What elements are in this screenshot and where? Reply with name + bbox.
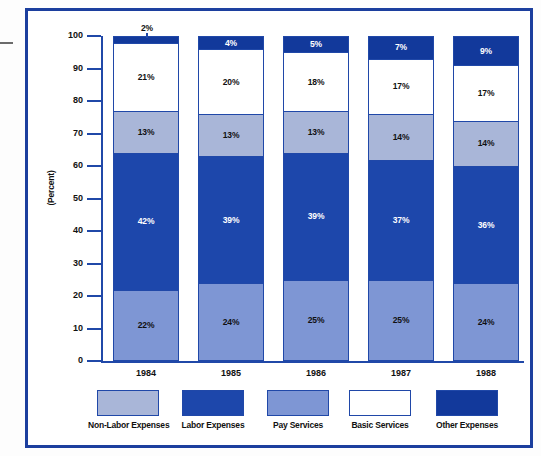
- bar-group: 5%18%13%39%25%: [283, 36, 349, 361]
- bar-segment-value-label: 22%: [138, 321, 155, 330]
- legend-label: Labor Expenses: [173, 420, 253, 430]
- x-axis-category-label: 1985: [198, 368, 264, 378]
- y-axis-tick: [87, 68, 101, 70]
- bar-segment-value-label: 36%: [478, 221, 495, 230]
- legend-item[interactable]: Other Expenses: [427, 390, 507, 430]
- bar-segment[interactable]: 39%: [284, 153, 348, 280]
- bar-segment[interactable]: 25%: [284, 280, 348, 361]
- x-axis-line: [101, 361, 524, 363]
- legend-item[interactable]: Labor Expenses: [173, 390, 253, 430]
- bar-segment[interactable]: 20%: [199, 49, 263, 114]
- bar-segment[interactable]: 13%: [199, 114, 263, 156]
- bar-segment[interactable]: 42%: [114, 153, 178, 290]
- bar-segment[interactable]: 36%: [454, 166, 518, 283]
- bar-segment-value-label: 13%: [223, 131, 240, 140]
- legend-label: Other Expenses: [427, 420, 507, 430]
- stacked-bar[interactable]: 5%18%13%39%25%: [283, 36, 349, 361]
- bar-segment[interactable]: 24%: [454, 283, 518, 361]
- value-label-leader-tick: [146, 33, 148, 38]
- bar-group: 4%20%13%39%24%: [198, 36, 264, 361]
- bar-segment[interactable]: 7%: [369, 36, 433, 59]
- legend-swatch: [97, 390, 159, 416]
- y-axis-labels: 1009080706050403020100: [25, 8, 83, 448]
- bar-segment[interactable]: 13%: [114, 111, 178, 153]
- y-axis-tick-label: 60: [49, 161, 83, 170]
- bar-segment[interactable]: 24%: [199, 283, 263, 361]
- bar-segment-value-label: 17%: [478, 89, 495, 98]
- bar-segment-value-label: 2%: [114, 24, 180, 33]
- bar-segment-value-label: 25%: [393, 316, 410, 325]
- chart-legend: Non-Labor ExpensesLabor ExpensesPay Serv…: [85, 390, 510, 440]
- y-axis-tick-label: 30: [49, 259, 83, 268]
- y-axis-tick-label: 10: [49, 324, 83, 333]
- bar-segment[interactable]: 13%: [284, 111, 348, 153]
- legend-swatch: [182, 390, 244, 416]
- bar-segment[interactable]: 14%: [454, 121, 518, 167]
- y-axis-tick-label: 40: [49, 226, 83, 235]
- x-axis-category-label: 1984: [113, 368, 179, 378]
- bar-segment-value-label: 18%: [308, 78, 325, 87]
- bar-segment[interactable]: 14%: [369, 114, 433, 160]
- y-axis-line: [101, 36, 103, 362]
- y-axis-tick: [87, 360, 101, 362]
- y-axis-tick: [87, 165, 101, 167]
- bar-segment-value-label: 9%: [480, 47, 492, 56]
- y-axis-tick: [87, 198, 101, 200]
- bar-segment[interactable]: 37%: [369, 160, 433, 280]
- bar-segment[interactable]: 5%: [284, 36, 348, 52]
- bar-group: 2%21%13%42%22%: [113, 36, 179, 361]
- stacked-bar[interactable]: 9%17%14%36%24%: [453, 36, 519, 361]
- bar-segment[interactable]: 22%: [114, 290, 178, 362]
- y-axis-tick-label: 90: [49, 64, 83, 73]
- bar-segment-value-label: 17%: [393, 82, 410, 91]
- bar-segment-value-label: 4%: [225, 39, 237, 48]
- stacked-bar-chart: (Percent) 1009080706050403020100 2%21%13…: [25, 8, 533, 448]
- bar-segment-value-label: 21%: [138, 73, 155, 82]
- bar-segment-value-label: 14%: [393, 133, 410, 142]
- bar-segment[interactable]: 18%: [284, 52, 348, 111]
- legend-item[interactable]: Non-Labor Expenses: [88, 390, 168, 430]
- y-axis-tick: [87, 133, 101, 135]
- bar-segment-value-label: 14%: [478, 139, 495, 148]
- bar-segment-value-label: 13%: [308, 128, 325, 137]
- bar-group: 9%17%14%36%24%: [453, 36, 519, 361]
- legend-swatch: [267, 390, 329, 416]
- bar-segment[interactable]: 17%: [454, 65, 518, 120]
- bar-segment-value-label: 20%: [223, 78, 240, 87]
- y-axis-tick-label: 100: [49, 31, 83, 40]
- bar-segment[interactable]: 21%: [114, 43, 178, 111]
- stacked-bar[interactable]: 4%20%13%39%24%: [198, 36, 264, 361]
- y-axis-tick: [87, 100, 101, 102]
- y-axis-tick: [87, 328, 101, 330]
- bar-segment-value-label: 39%: [308, 212, 325, 221]
- bar-segment[interactable]: 17%: [369, 59, 433, 114]
- legend-label: Basic Services: [340, 420, 420, 430]
- legend-item[interactable]: Pay Services: [258, 390, 338, 430]
- bar-segment[interactable]: 4%: [199, 36, 263, 49]
- y-axis-tick: [87, 230, 101, 232]
- y-axis-tick-label: 50: [49, 194, 83, 203]
- legend-swatch: [436, 390, 498, 416]
- bar-segment[interactable]: 9%: [454, 36, 518, 65]
- x-axis-category-label: 1986: [283, 368, 349, 378]
- bar-segment-value-label: 7%: [395, 43, 407, 52]
- stacked-bar[interactable]: 2%21%13%42%22%: [113, 36, 179, 361]
- y-axis-tick-label: 20: [49, 291, 83, 300]
- y-axis-tick: [87, 35, 101, 37]
- legend-item[interactable]: Basic Services: [340, 390, 420, 430]
- bar-segment[interactable]: 25%: [369, 280, 433, 361]
- legend-label: Pay Services: [258, 420, 338, 430]
- bar-segment[interactable]: 39%: [199, 156, 263, 283]
- bar-segment-value-label: 24%: [223, 318, 240, 327]
- bar-group: 7%17%14%37%25%: [368, 36, 434, 361]
- y-axis-tick-label: 80: [49, 96, 83, 105]
- stacked-bar[interactable]: 7%17%14%37%25%: [368, 36, 434, 361]
- y-axis-tick-label: 70: [49, 129, 83, 138]
- page-background: (Percent) 1009080706050403020100 2%21%13…: [0, 0, 541, 456]
- x-axis-category-label: 1988: [453, 368, 519, 378]
- bar-segment-value-label: 37%: [393, 216, 410, 225]
- y-axis-tick-label: 0: [49, 356, 83, 365]
- y-axis-tick: [87, 295, 101, 297]
- bar-segment-value-label: 39%: [223, 216, 240, 225]
- bar-segment-value-label: 25%: [308, 316, 325, 325]
